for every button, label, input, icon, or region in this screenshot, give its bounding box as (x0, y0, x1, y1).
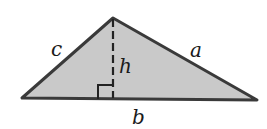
triangle-figure: c a h b (0, 0, 267, 129)
label-side-a: a (190, 38, 202, 62)
label-base-b: b (132, 105, 145, 129)
label-height-h: h (119, 54, 132, 78)
triangle-diagram: c a h b (0, 0, 267, 129)
label-side-c: c (51, 37, 62, 61)
